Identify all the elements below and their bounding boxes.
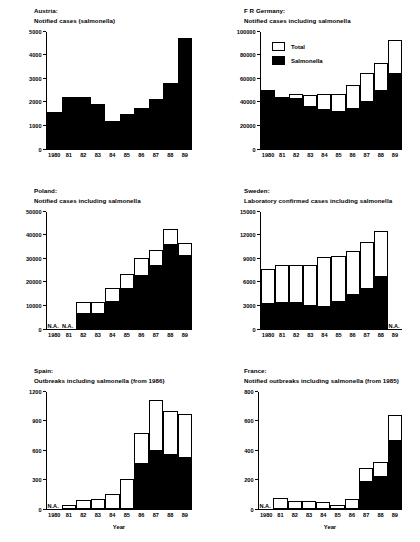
x-tick-label: 89 bbox=[178, 512, 193, 518]
bar-segment-salmonella bbox=[388, 73, 402, 149]
y-tick-mark bbox=[257, 54, 260, 55]
bar-segment-salmonella bbox=[360, 101, 374, 149]
y-tick-mark bbox=[257, 328, 260, 329]
panel-france: France: Notified outbreaks including sal… bbox=[210, 360, 420, 542]
y-tick-label: 3000 bbox=[29, 75, 41, 81]
plot-area-spain: 03006009001200N.A.1980818283848586878889… bbox=[46, 392, 192, 510]
y-tick-label: 30000 bbox=[26, 255, 42, 261]
y-tick-mark bbox=[43, 281, 46, 282]
bar-segment-total bbox=[330, 505, 344, 509]
y-tick-mark bbox=[257, 258, 260, 259]
bar-segment-total bbox=[302, 501, 316, 509]
bar bbox=[374, 32, 388, 149]
y-tick-label: 0 bbox=[38, 146, 41, 152]
bar bbox=[316, 392, 330, 509]
bar-segment-total bbox=[76, 500, 91, 509]
bar-segment-total bbox=[273, 498, 287, 509]
y-tick-mark bbox=[43, 30, 46, 31]
bar bbox=[91, 392, 106, 509]
bar-series bbox=[259, 392, 402, 509]
x-tick-label: 85 bbox=[120, 512, 135, 518]
bar bbox=[105, 212, 120, 329]
bar-segment-salmonella bbox=[120, 288, 135, 329]
x-tick-label: 86 bbox=[346, 332, 360, 338]
bar bbox=[62, 392, 77, 509]
legend: Total Salmonella bbox=[272, 42, 323, 70]
title-line-1: Austria: bbox=[34, 7, 58, 14]
y-tick-mark bbox=[257, 101, 260, 102]
x-tick-label: 82 bbox=[76, 332, 91, 338]
bar bbox=[105, 32, 120, 149]
bar bbox=[275, 212, 289, 329]
panel-poland: Poland: Notified cases including salmone… bbox=[0, 180, 210, 360]
y-tick-label: 0 bbox=[38, 506, 41, 512]
panel-title-fr-germany: F R Germany: Notified cases including sa… bbox=[244, 6, 351, 25]
x-tick-label: 85 bbox=[331, 152, 345, 158]
x-tick-label: 87 bbox=[360, 152, 374, 158]
x-tick-label: 1980 bbox=[47, 512, 62, 518]
x-tick-label: 84 bbox=[105, 152, 120, 158]
y-tick-label: 0 bbox=[252, 146, 255, 152]
x-tick-label: 88 bbox=[163, 152, 178, 158]
x-tick-label: 88 bbox=[163, 332, 178, 338]
y-tick-label: 900 bbox=[32, 418, 41, 424]
x-tick-label: 84 bbox=[317, 332, 331, 338]
x-tick-label: 82 bbox=[76, 512, 91, 518]
y-tick-label: 1000 bbox=[29, 122, 41, 128]
x-tick-label: 82 bbox=[289, 152, 303, 158]
y-tick-label: 2000 bbox=[29, 99, 41, 105]
bar bbox=[388, 212, 402, 329]
bar-segment-salmonella bbox=[275, 302, 289, 329]
title-line-2: Notified outbreaks including salmonella … bbox=[244, 376, 399, 386]
bar bbox=[120, 32, 135, 149]
y-tick-label: 80000 bbox=[240, 52, 256, 58]
title-line-1: Poland: bbox=[34, 187, 57, 194]
na-label: N.A. bbox=[62, 323, 73, 329]
bar bbox=[259, 392, 273, 509]
bar bbox=[76, 392, 91, 509]
x-tick-label: 87 bbox=[149, 332, 164, 338]
title-line-2: Notified cases including salmonella bbox=[34, 196, 141, 206]
panel-austria: Austria: Notified cases (salmonella) 010… bbox=[0, 0, 210, 180]
bar bbox=[149, 32, 164, 149]
bar bbox=[134, 212, 149, 329]
x-tick-label: 84 bbox=[105, 332, 120, 338]
x-tick-label: 1980 bbox=[261, 332, 275, 338]
bar-segment-salmonella bbox=[62, 97, 77, 149]
bar bbox=[373, 392, 387, 509]
na-label: N.A. bbox=[388, 323, 399, 329]
bar bbox=[105, 392, 120, 509]
bar-segment-salmonella bbox=[317, 306, 331, 329]
bar bbox=[261, 212, 275, 329]
x-tick-label: 85 bbox=[330, 512, 344, 518]
y-tick-label: 600 bbox=[32, 447, 41, 453]
bar bbox=[120, 212, 135, 329]
x-axis-title: Year bbox=[258, 524, 402, 530]
bar-segment-total bbox=[288, 501, 302, 509]
bar bbox=[178, 392, 193, 509]
bar bbox=[47, 392, 62, 509]
y-tick-mark bbox=[257, 30, 260, 31]
bar bbox=[163, 392, 178, 509]
figure-grid: Austria: Notified cases (salmonella) 010… bbox=[0, 0, 420, 542]
bar-segment-total bbox=[316, 502, 330, 509]
x-tick-label: 89 bbox=[178, 332, 193, 338]
bar-segment-salmonella bbox=[331, 301, 345, 329]
na-label: N.A. bbox=[48, 503, 59, 509]
legend-item-total: Total bbox=[272, 42, 323, 51]
bar bbox=[388, 32, 402, 149]
x-tick-label: 87 bbox=[359, 512, 373, 518]
bar bbox=[76, 32, 91, 149]
bar-segment-salmonella bbox=[134, 463, 149, 509]
panel-spain: Spain: Outbreaks including salmonella (f… bbox=[0, 360, 210, 542]
plot-area-austria: 0100020003000400050001980818283848586878… bbox=[46, 32, 192, 150]
y-tick-label: 600 bbox=[244, 418, 253, 424]
bar bbox=[120, 392, 135, 509]
x-tick-label: 83 bbox=[91, 152, 106, 158]
panel-title-sweden: Sweden: Laboratory confirmed cases inclu… bbox=[244, 186, 392, 205]
bar bbox=[134, 32, 149, 149]
bar bbox=[149, 212, 164, 329]
y-tick-mark bbox=[43, 449, 46, 450]
y-tick-label: 5000 bbox=[29, 28, 41, 34]
bar bbox=[331, 212, 345, 329]
